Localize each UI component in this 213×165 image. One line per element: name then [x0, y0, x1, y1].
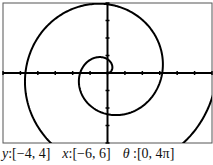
y-window: y:[−4, 4]: [2, 146, 50, 165]
x-window: x:[−6, 6]: [62, 146, 110, 165]
window-settings: y:[−4, 4] x:[−6, 6] θ :[0, 4π]: [0, 146, 213, 165]
polar-plot: [0, 0, 213, 146]
theta-window: θ :[0, 4π]: [123, 146, 175, 165]
